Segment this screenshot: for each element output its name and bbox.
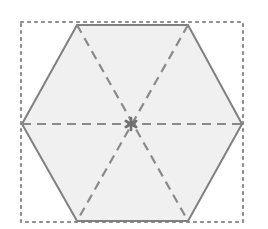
hexagon-figure [0, 0, 268, 229]
figure-canvas [0, 0, 268, 229]
center-point [129, 122, 133, 126]
